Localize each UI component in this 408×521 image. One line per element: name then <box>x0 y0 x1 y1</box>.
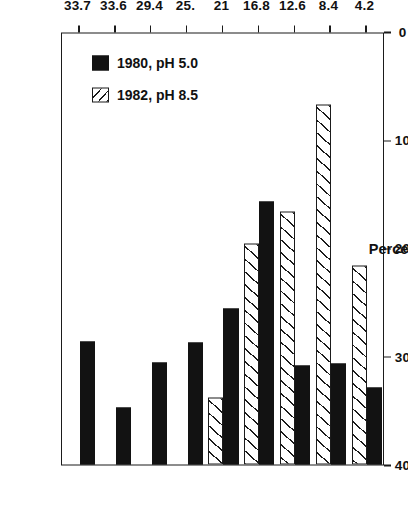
legend-label-1982: 1982, pH 8.5 <box>117 86 198 102</box>
bar-21-series-1 <box>223 308 238 464</box>
y-tick-label-40: 40 <box>388 458 408 473</box>
bar-group-12-6 <box>277 33 313 464</box>
bar-29-4-series-1 <box>152 362 167 464</box>
x-tick-8-4 <box>329 25 330 32</box>
x-tick-4-2 <box>365 25 366 32</box>
x-tick-25- <box>186 25 187 32</box>
legend-label-1980: 1980, pH 5.0 <box>117 54 198 70</box>
chart-figure: 4.28.412.616.82125.29.433.633.7 01020304… <box>0 0 408 521</box>
x-tick-12-6 <box>294 25 295 32</box>
bar-21-series-2 <box>208 397 223 464</box>
x-tick-label-29-4: 29.4 <box>132 0 166 13</box>
x-tick-label-21: 21 <box>204 0 238 13</box>
y-tick-label-0: 0 <box>388 25 408 40</box>
bar-4-2-series-2 <box>352 265 367 464</box>
y-tick-label-30: 30 <box>388 349 408 364</box>
x-tick-label-33-6: 33.6 <box>96 0 130 13</box>
x-tick-label-12-6: 12.6 <box>276 0 310 13</box>
bar-16-8-series-2 <box>244 243 259 464</box>
x-tick-33-6 <box>114 25 115 32</box>
bar-25--series-1 <box>188 342 203 464</box>
bar-group-8-4 <box>313 33 349 464</box>
x-tick-label-25-: 25. <box>168 0 202 13</box>
bar-8-4-series-2 <box>316 104 331 464</box>
bar-33-7-series-1 <box>80 341 95 464</box>
legend-swatch-hatch-icon <box>92 87 109 102</box>
bar-8-4-series-1 <box>331 363 346 464</box>
legend-swatch-solid-icon <box>92 55 109 70</box>
x-tick-label-16-8: 16.8 <box>240 0 274 13</box>
x-tick-label-4-2: 4.2 <box>348 0 382 13</box>
legend: 1980, pH 5.0 1982, pH 8.5 <box>92 39 242 123</box>
bar-group-16-8 <box>241 33 277 464</box>
x-tick-16-8 <box>258 25 259 32</box>
x-tick-label-33-7: 33.7 <box>60 0 94 13</box>
bar-4-2-series-1 <box>367 387 382 464</box>
bar-33-6-series-1 <box>116 407 131 464</box>
bar-12-6-series-1 <box>295 366 310 465</box>
x-tick-29-4 <box>150 25 151 32</box>
legend-item-1982: 1982, pH 8.5 <box>92 83 242 105</box>
y-axis-title: Percent of Group <box>353 241 408 257</box>
y-tick-label-10: 10 <box>388 133 408 148</box>
bar-12-6-series-2 <box>280 211 295 464</box>
x-tick-21 <box>222 25 223 32</box>
bar-16-8-series-1 <box>259 201 274 464</box>
legend-item-1980: 1980, pH 5.0 <box>92 51 242 73</box>
x-tick-label-8-4: 8.4 <box>312 0 346 13</box>
x-tick-33-7 <box>78 25 79 32</box>
